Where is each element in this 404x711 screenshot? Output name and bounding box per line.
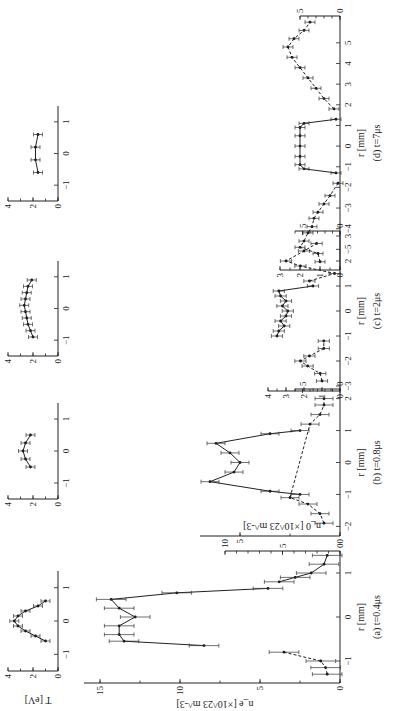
- svg-text:4: 4: [3, 674, 13, 679]
- svg-text:0: 0: [61, 448, 71, 453]
- svg-text:−1: −1: [61, 478, 71, 488]
- svg-text:4: 4: [263, 394, 273, 399]
- svg-text:1: 1: [315, 273, 325, 278]
- figure-rotated: 024−101051015−1010510r [mm](a) t=0.4μs02…: [0, 0, 404, 711]
- svg-text:5: 5: [278, 543, 288, 548]
- svg-text:1: 1: [343, 284, 353, 289]
- series-n-0-right-: [288, 22, 334, 109]
- svg-text:0: 0: [335, 273, 345, 278]
- svg-text:3: 3: [343, 233, 353, 238]
- svg-text:0: 0: [343, 460, 353, 465]
- svg-text:−1: −1: [343, 656, 353, 666]
- svg-text:−2: −2: [343, 356, 353, 366]
- svg-text:1: 1: [343, 123, 353, 128]
- density-axis-label: n_e [×10^23 m^-3]: [176, 699, 253, 710]
- series-t: [36, 135, 39, 173]
- series-n-e: [300, 119, 336, 173]
- svg-text:0: 0: [61, 618, 71, 623]
- svg-text:5: 5: [298, 381, 308, 386]
- xlabel-a: r [mm]: [355, 603, 366, 631]
- svg-text:0: 0: [61, 306, 71, 311]
- svg-text:1: 1: [343, 428, 353, 433]
- svg-text:−1: −1: [61, 180, 71, 190]
- svg-text:−1: −1: [343, 162, 353, 172]
- caption-d: (d) t=7μs: [371, 124, 383, 161]
- svg-text:1: 1: [61, 417, 71, 422]
- series-n-0-dashed-: [284, 652, 327, 674]
- svg-text:−4: −4: [343, 223, 353, 233]
- series-n-0-solid-: [279, 555, 327, 581]
- svg-text:1: 1: [61, 120, 71, 125]
- svg-text:2: 2: [295, 273, 305, 278]
- svg-text:0: 0: [343, 308, 353, 313]
- svg-text:0: 0: [61, 151, 71, 156]
- svg-text:4: 4: [3, 204, 13, 209]
- svg-text:10: 10: [220, 539, 230, 549]
- svg-text:2: 2: [343, 259, 353, 264]
- svg-text:2: 2: [28, 674, 38, 679]
- svg-text:0: 0: [343, 143, 353, 148]
- svg-text:0: 0: [335, 686, 345, 691]
- svg-text:2: 2: [28, 502, 38, 507]
- chart-c-temperature: 024−101: [3, 261, 71, 364]
- svg-text:0: 0: [335, 394, 345, 399]
- xlabel-d: r [mm]: [355, 129, 366, 157]
- xlabel-c: r [mm]: [355, 297, 366, 325]
- svg-text:4: 4: [3, 502, 13, 507]
- svg-text:0: 0: [53, 359, 63, 364]
- svg-text:−2: −2: [343, 522, 353, 532]
- svg-text:0: 0: [53, 502, 63, 507]
- svg-text:5: 5: [255, 686, 265, 691]
- temperature-axis-label: T [eV]: [25, 695, 52, 706]
- xlabel-b: r [mm]: [355, 448, 366, 476]
- svg-text:4: 4: [343, 61, 353, 66]
- svg-text:−1: −1: [61, 335, 71, 345]
- series-n-0-left-: [300, 183, 338, 261]
- series-n-e: [210, 431, 300, 495]
- svg-text:3: 3: [343, 81, 353, 86]
- svg-text:−1: −1: [343, 490, 353, 500]
- chart-d-temperature: 024−101: [3, 106, 71, 209]
- caption-b: (b) t=0.8μs: [371, 440, 383, 484]
- chart-c-density: 01234−3−2−1012305r [mm](c) t=2μs: [263, 223, 383, 399]
- svg-text:1: 1: [61, 585, 71, 590]
- figure-canvas: 024−101051015−1010510r [mm](a) t=0.4μs02…: [0, 0, 404, 711]
- svg-text:4: 4: [3, 359, 13, 364]
- svg-text:1: 1: [343, 571, 353, 576]
- svg-text:10: 10: [175, 686, 185, 696]
- svg-text:3: 3: [275, 273, 285, 278]
- svg-text:5: 5: [295, 8, 305, 13]
- chart-b-temperature: 024−101: [3, 403, 71, 507]
- svg-text:1: 1: [61, 275, 71, 280]
- svg-text:−5: −5: [343, 244, 353, 254]
- svg-text:3: 3: [281, 394, 291, 399]
- svg-text:0: 0: [335, 539, 345, 544]
- chart-a-temperature: 024−101: [3, 571, 71, 679]
- svg-text:−2: −2: [343, 183, 353, 193]
- svg-text:−1: −1: [343, 331, 353, 341]
- svg-text:1: 1: [317, 394, 327, 399]
- svg-text:5: 5: [235, 539, 245, 544]
- svg-text:−3: −3: [343, 381, 353, 391]
- svg-text:−1: −1: [61, 650, 71, 660]
- svg-text:0: 0: [335, 8, 345, 13]
- svg-text:2: 2: [343, 103, 353, 108]
- caption-a: (a) t=0.4μs: [371, 595, 383, 639]
- chart-a-density: 051015−1010510r [mm](a) t=0.4μs: [84, 539, 383, 696]
- svg-text:0: 0: [53, 204, 63, 209]
- svg-text:15: 15: [95, 686, 105, 696]
- svg-text:5: 5: [343, 40, 353, 45]
- svg-text:0: 0: [53, 674, 63, 679]
- svg-text:5: 5: [298, 223, 308, 228]
- chart-d-density: 0123−5−4−3−2−101234505r [mm](d) t=7μs: [275, 8, 383, 278]
- svg-text:2: 2: [299, 394, 309, 399]
- series-t: [24, 280, 33, 337]
- svg-text:0: 0: [335, 543, 345, 548]
- svg-text:−3: −3: [343, 203, 353, 213]
- caption-c: (c) t=2μs: [371, 293, 383, 329]
- svg-text:2: 2: [28, 204, 38, 209]
- series-n-0-right-: [286, 244, 335, 282]
- neutral-density-axis-label: n_0 [×10^23 m^-3]: [243, 521, 321, 532]
- chart-b-density: 05−2−101205r [mm](b) t=0.8μs: [200, 381, 383, 544]
- svg-text:0: 0: [343, 614, 353, 619]
